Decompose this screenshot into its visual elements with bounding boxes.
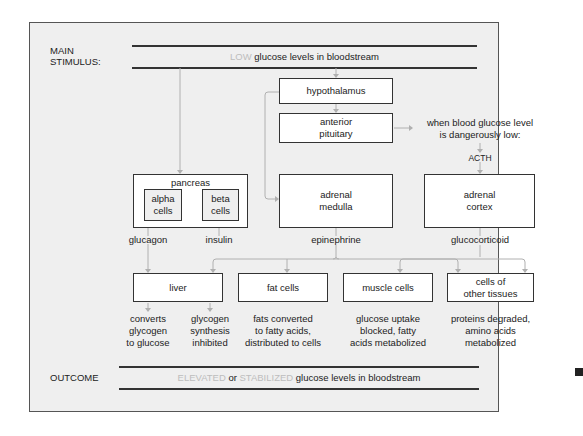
- beta-cells-line1: beta: [211, 193, 230, 205]
- outcome-or: or: [226, 372, 240, 383]
- muscle-cells-label: muscle cells: [362, 282, 414, 294]
- effect-line: to glucose: [118, 337, 178, 349]
- alpha-cells-line1: alpha: [151, 193, 174, 205]
- pancreas-box: pancreas alpha cells beta cells: [133, 174, 248, 228]
- effect-line: amino acids: [447, 325, 534, 337]
- beta-cells-line2: cells: [211, 205, 230, 217]
- liver-effect-glycogenolysis: converts glycogen to glucose: [118, 313, 178, 349]
- effect-line: metabolized: [447, 337, 534, 349]
- low-glucose-condition-note: when blood glucose level is dangerously …: [412, 117, 548, 141]
- epinephrine-label: epinephrine: [300, 234, 372, 246]
- adrenal-medulla-line1: adrenal: [320, 189, 352, 201]
- hypothalamus-label: hypothalamus: [306, 85, 365, 97]
- adrenal-cortex-line1: adrenal: [464, 189, 496, 201]
- outcome-bottom-rule: [119, 388, 479, 390]
- effect-line: proteins degraded,: [447, 313, 534, 325]
- effect-line: acids metabolized: [343, 337, 433, 349]
- outcome-ghost-stabilized: STABILIZED: [240, 372, 294, 383]
- beta-cells-box: beta cells: [202, 189, 239, 221]
- glucagon-label: glucagon: [118, 234, 178, 246]
- effect-line: glycogen: [118, 325, 178, 337]
- adrenal-medulla-line2: medulla: [319, 201, 352, 213]
- effect-line: glucose uptake: [343, 313, 433, 325]
- outcome-rest: glucose levels in bloodstream: [293, 372, 420, 383]
- muscle-cells-effect: glucose uptake blocked, fatty acids meta…: [343, 313, 433, 349]
- cropped-caption-marker: [575, 368, 583, 376]
- effect-line: synthesis: [182, 325, 238, 337]
- other-tissues-box: cells of other tissues: [447, 273, 534, 302]
- anterior-pituitary-line2: pituitary: [319, 128, 352, 140]
- condition-note-line2: is dangerously low:: [412, 129, 548, 141]
- other-tissues-effect: proteins degraded, amino acids metaboliz…: [447, 313, 534, 349]
- effect-line: fats converted: [238, 313, 328, 325]
- adrenal-cortex-line2: cortex: [467, 201, 493, 213]
- adrenal-cortex-box: adrenal cortex: [424, 174, 535, 228]
- liver-effect-synthesis-inhibited: glycogen synthesis inhibited: [182, 313, 238, 349]
- other-tissues-line2: other tissues: [464, 288, 518, 300]
- effect-line: blocked, fatty: [343, 325, 433, 337]
- pancreas-label: pancreas: [134, 177, 247, 189]
- outcome-text: ELEVATED or STABILIZED glucose levels in…: [119, 372, 479, 383]
- fat-cells-box: fat cells: [238, 273, 328, 302]
- fat-cells-effect: fats converted to fatty acids, distribut…: [238, 313, 328, 349]
- outcome-top-rule: [119, 366, 479, 368]
- condition-note-line1: when blood glucose level: [412, 117, 548, 129]
- liver-label: liver: [169, 282, 186, 294]
- effect-line: converts: [118, 313, 178, 325]
- effect-line: inhibited: [182, 337, 238, 349]
- outcome-ghost-elevated: ELEVATED: [178, 372, 226, 383]
- muscle-cells-box: muscle cells: [343, 273, 433, 302]
- acth-label: ACTH: [440, 152, 520, 164]
- other-tissues-line1: cells of: [476, 276, 506, 288]
- effect-line: distributed to cells: [238, 337, 328, 349]
- anterior-pituitary-line1: anterior: [320, 116, 352, 128]
- effect-line: glycogen: [182, 313, 238, 325]
- alpha-cells-line2: cells: [153, 205, 172, 217]
- effect-line: to fatty acids,: [238, 325, 328, 337]
- alpha-cells-box: alpha cells: [144, 189, 182, 221]
- outcome-label: OUTCOME: [50, 372, 99, 383]
- hypothalamus-box: hypothalamus: [279, 78, 393, 104]
- anterior-pituitary-box: anterior pituitary: [279, 113, 393, 143]
- liver-box: liver: [133, 273, 223, 302]
- insulin-label: insulin: [194, 234, 244, 246]
- fat-cells-label: fat cells: [267, 282, 299, 294]
- adrenal-medulla-box: adrenal medulla: [279, 174, 393, 228]
- glucocorticoid-label: glucocorticoid: [438, 234, 522, 246]
